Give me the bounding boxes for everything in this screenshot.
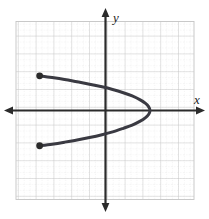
y-axis-label: y — [111, 10, 119, 25]
lower-endpoint-dot — [36, 142, 43, 149]
y-axis-bottom-arrow — [102, 203, 110, 212]
x-axis-label: x — [193, 92, 200, 107]
upper-endpoint-dot — [36, 72, 43, 79]
x-axis-left-arrow — [4, 107, 13, 115]
graph-figure: y x — [0, 0, 209, 219]
coordinate-plane: y x — [0, 0, 209, 219]
x-axis-right-arrow — [196, 107, 205, 115]
y-axis-top-arrow — [102, 8, 110, 17]
